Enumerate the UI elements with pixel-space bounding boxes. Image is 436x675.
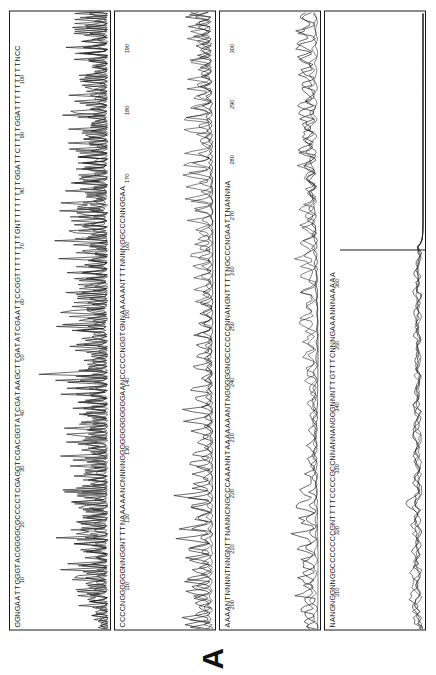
base-call: G [115,422,130,427]
base-call: T [220,277,235,282]
base-call: A [220,201,235,206]
basecall-sequence-lane-2: CCCCNGGGGGGNNGGNTTTNAAAAANCNNNNGGGGGGGGG… [115,11,130,629]
base-call: C [220,492,235,497]
base-call: A [10,163,25,168]
base-call: G [220,384,235,389]
base-call: T [10,239,25,244]
base-call: C [10,487,25,492]
base-call: C [115,217,130,222]
base-call: N [115,250,130,255]
panel-label-a: A [198,647,228,669]
base-call: G [220,390,235,395]
figure-stage: A GGNGAATTGGGTACGGGGCGCCCCTCGAGGTCGACGGT… [0,0,436,675]
base-call: A [325,314,340,319]
base-call: G [115,401,130,406]
base-call: A [325,444,340,449]
base-call: N [220,185,235,190]
base-call: T [10,77,25,82]
base-call: G [325,374,340,379]
base-call: T [10,390,25,395]
base-call: A [115,498,130,503]
base-call: G [10,120,25,125]
base-call: A [220,433,235,438]
base-call: C [10,503,25,508]
base-call: A [115,309,130,314]
base-call: N [220,578,235,583]
base-call: N [220,519,235,524]
base-call: N [220,314,235,319]
base-call: A [10,444,25,449]
base-call: A [115,287,130,292]
trace-channels-lane-4 [406,13,423,629]
base-call: G [115,196,130,201]
base-call: G [10,465,25,470]
base-call: N [220,190,235,195]
base-call: A [325,282,340,287]
chromatogram-lane-3: AAAANTNNNNTNNGNTTNANNCNGCCCAAANNTAAAAAAA… [219,10,321,630]
base-call: G [10,535,25,540]
base-call: A [220,309,235,314]
base-call: N [325,433,340,438]
base-call: A [325,271,340,276]
base-call: G [115,584,130,589]
base-call: N [325,336,340,341]
base-call: T [325,503,340,508]
trace-plot-lane-4 [340,11,425,629]
base-call: N [220,600,235,605]
base-call: C [10,455,25,460]
base-call: N [325,449,340,454]
base-call: N [115,379,130,384]
base-call: T [10,72,25,77]
base-call: G [220,298,235,303]
base-call: C [325,487,340,492]
base-call: T [10,411,25,416]
base-call: G [115,336,130,341]
base-call: T [10,363,25,368]
base-call: T [10,260,25,265]
base-call: G [10,352,25,357]
base-call: T [10,331,25,336]
base-call: C [325,460,340,465]
base-call: N [10,223,25,228]
base-call: G [115,201,130,206]
base-call: T [220,541,235,546]
base-call: N [220,239,235,244]
base-call: C [10,508,25,513]
base-call: G [220,233,235,238]
trace-channels-lane-1 [39,11,108,629]
base-call: G [10,320,25,325]
base-call: N [325,341,340,346]
base-call: G [115,233,130,238]
base-call: T [325,363,340,368]
basecall-sequence-lane-1: GGNGAATTGGGTACGGGGCGCCCCTCGAGGTCGACGGTAT… [10,11,25,629]
base-call: G [115,546,130,551]
chromatogram-lane-1: GGNGAATTGGGTACGGGGCGCCCCTCGAGGTCGACGGTAT… [9,10,111,630]
base-call: T [115,525,130,530]
base-call: N [325,298,340,303]
trace-plot-lane-3 [235,11,320,629]
base-call: A [115,293,130,298]
base-call: G [10,568,25,573]
base-call: G [115,239,130,244]
base-call: C [115,481,130,486]
base-call: C [115,228,130,233]
base-call: G [325,525,340,530]
base-call: T [220,595,235,600]
base-call: C [115,605,130,610]
base-call: C [10,525,25,530]
trace-channel-G-channel [294,12,317,629]
base-call: N [10,56,25,61]
trace-channels-lane-2 [174,12,213,629]
base-call: G [10,169,25,174]
base-call: N [115,476,130,481]
base-call: G [220,357,235,362]
base-call: T [220,287,235,292]
base-call: A [220,180,235,185]
base-call: G [10,519,25,524]
base-call: G [115,433,130,438]
base-call: A [115,514,130,519]
base-call: A [115,190,130,195]
base-call: C [10,293,25,298]
base-call: A [115,384,130,389]
base-call: T [10,131,25,136]
